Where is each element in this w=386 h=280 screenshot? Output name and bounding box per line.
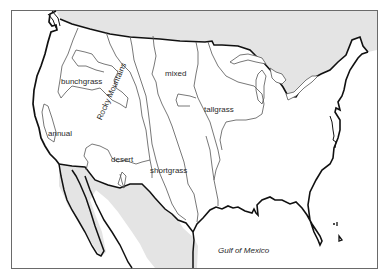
region-label-bunchgrass: bunchgrass (61, 78, 102, 86)
region-label-annual: annual (48, 130, 72, 138)
region-label-desert: desert (111, 156, 133, 164)
region-label-mixed: mixed (165, 70, 186, 78)
grassland-map (0, 0, 386, 280)
region-label-tallgrass: tallgrass (204, 106, 234, 114)
gulf-of-mexico-label: Gulf of Mexico (218, 247, 269, 255)
region-label-shortgrass: shortgrass (150, 167, 187, 175)
